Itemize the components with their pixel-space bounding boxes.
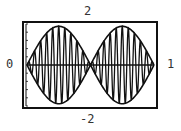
y-min-label: -2 (80, 113, 94, 125)
lower-envelope-curve (27, 65, 154, 104)
y-max-label: 2 (84, 5, 91, 17)
x-max-label: 1 (167, 58, 174, 70)
curves (27, 26, 154, 103)
x-min-label: 0 (6, 58, 13, 70)
